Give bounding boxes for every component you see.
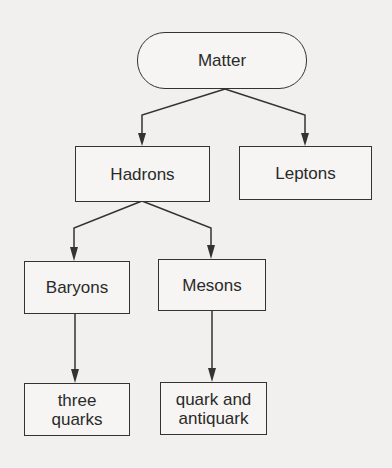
arrow-matter-leptons — [225, 89, 305, 134]
node-label: quark and antiquark — [165, 390, 262, 428]
node-three-quarks: three quarks — [24, 383, 130, 436]
arrow-matter-hadrons — [142, 89, 225, 134]
node-label: Hadrons — [110, 165, 174, 184]
node-baryons: Baryons — [24, 261, 130, 314]
arrowhead-icon — [207, 245, 215, 259]
node-label: Mesons — [182, 276, 242, 295]
node-matter: Matter — [137, 32, 307, 89]
arrow-hadrons-mesons — [142, 201, 211, 246]
node-mesons: Mesons — [158, 259, 266, 311]
node-label: Baryons — [46, 278, 108, 297]
arrowhead-icon — [138, 133, 146, 146]
arrowhead-icon — [301, 133, 309, 146]
arrowhead-icon — [208, 368, 216, 382]
node-label: Leptons — [275, 164, 336, 183]
arrowhead-icon — [70, 247, 78, 261]
node-quark-and-antiquark: quark and antiquark — [160, 382, 267, 435]
arrow-hadrons-baryons — [74, 201, 142, 248]
arrowhead-icon — [71, 369, 79, 383]
node-hadrons: Hadrons — [75, 146, 210, 202]
node-leptons: Leptons — [239, 146, 372, 200]
node-label: Matter — [198, 51, 246, 70]
node-label: three quarks — [43, 391, 111, 429]
